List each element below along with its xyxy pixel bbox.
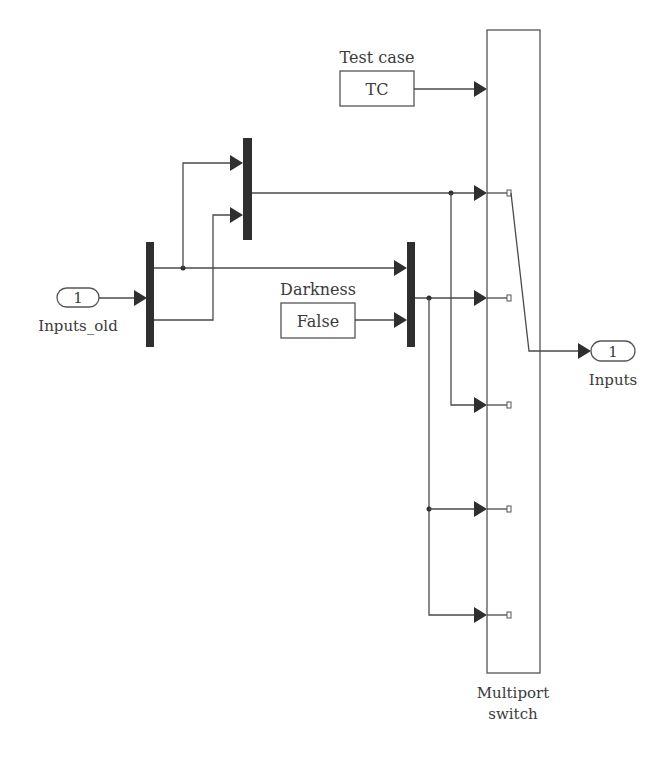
- switch-label-line1: Multiport: [477, 684, 549, 702]
- arrow-icon: [230, 207, 243, 223]
- inport-label: Inputs_old: [38, 317, 118, 335]
- arrow-icon: [474, 185, 487, 201]
- diagram-canvas: 1 Inputs_old Test case TC Darkness False: [0, 0, 670, 769]
- darkness-value: False: [297, 312, 339, 331]
- switch-port5-terminal: [507, 506, 511, 512]
- arrow-icon: [578, 343, 591, 359]
- inport-number: 1: [73, 289, 83, 307]
- outport-number: 1: [608, 343, 618, 361]
- arrow-icon: [474, 290, 487, 306]
- inport-inputs-old[interactable]: 1 Inputs_old: [38, 288, 118, 335]
- darkness-label: Darkness: [280, 280, 356, 299]
- wire-branch-to-switch-port6: [429, 298, 477, 615]
- tc-value: TC: [366, 80, 389, 99]
- outport-inputs[interactable]: 1 Inputs: [589, 341, 638, 389]
- demux-block[interactable]: [146, 242, 154, 347]
- arrow-icon: [394, 260, 407, 276]
- arrow-icon: [474, 607, 487, 623]
- test-case-label: Test case: [340, 48, 415, 67]
- wire-branch-to-switch-port4: [451, 193, 477, 405]
- arrow-icon: [394, 312, 407, 328]
- mux-top-block[interactable]: [243, 138, 252, 240]
- test-case-constant-block[interactable]: TC: [340, 71, 414, 106]
- switch-port2-terminal: [507, 295, 511, 301]
- switch-port6-terminal: [507, 612, 511, 618]
- arrow-icon: [134, 290, 147, 306]
- arrow-icon: [230, 155, 243, 171]
- mux-darkness-block[interactable]: [407, 242, 415, 347]
- switch-port4-terminal: [507, 402, 511, 408]
- darkness-constant-block[interactable]: False: [281, 303, 355, 338]
- arrow-icon: [474, 81, 487, 97]
- arrow-icon: [474, 397, 487, 413]
- arrow-icon: [474, 501, 487, 517]
- switch-port1-terminal: [507, 190, 511, 196]
- switch-label-line2: switch: [488, 705, 538, 723]
- outport-label: Inputs: [589, 371, 638, 389]
